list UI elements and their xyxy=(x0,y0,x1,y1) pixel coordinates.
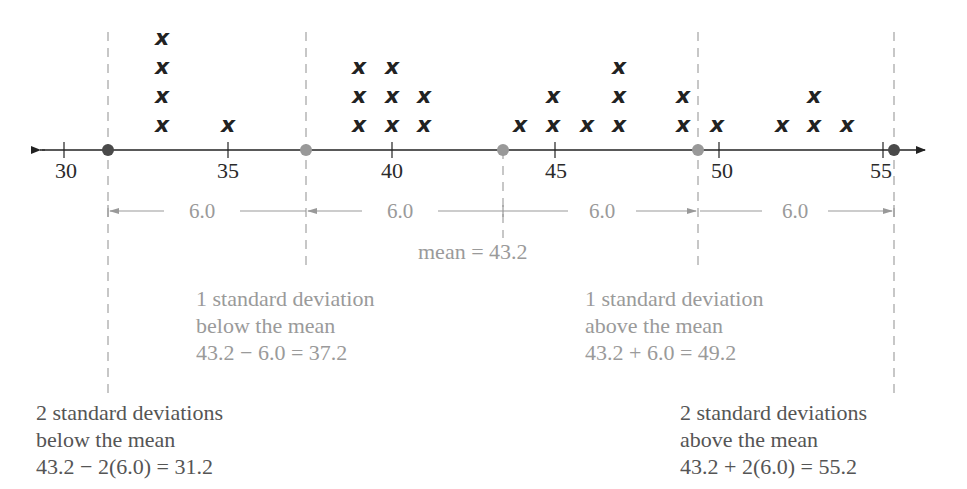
data-point-x: x xyxy=(580,114,594,136)
axis-label-40: 40 xyxy=(381,158,403,184)
annotation-line: 43.2 + 6.0 = 49.2 xyxy=(585,339,763,366)
number-line xyxy=(40,142,925,158)
data-point-x: x xyxy=(840,114,854,136)
annotation-line: above the mean xyxy=(585,312,763,339)
data-point-x: x xyxy=(417,85,431,107)
data-point-x: x xyxy=(352,114,366,136)
annotation-line: below the mean xyxy=(196,312,374,339)
data-point-x: x xyxy=(612,114,626,136)
data-point-x: x xyxy=(546,114,560,136)
annotation-line: 2 standard deviations xyxy=(680,399,867,426)
annotation-line: 2 standard deviations xyxy=(36,399,223,426)
axis-label-30: 30 xyxy=(55,158,77,184)
data-point-x: x xyxy=(546,85,560,107)
data-point-x: x xyxy=(385,114,399,136)
marker-dot-55-2 xyxy=(888,144,900,156)
data-point-x: x xyxy=(155,114,169,136)
annotation-minus-2-sd: 2 standard deviations below the mean 43.… xyxy=(36,399,223,480)
annotation-line: 43.2 − 6.0 = 37.2 xyxy=(196,339,374,366)
marker-dot-49-2 xyxy=(692,144,704,156)
axis-label-45: 45 xyxy=(545,158,567,184)
annotation-minus-1-sd: 1 standard deviation below the mean 43.2… xyxy=(196,285,374,366)
data-point-x: x xyxy=(385,85,399,107)
data-point-x: x xyxy=(385,56,399,78)
data-point-x: x xyxy=(775,114,789,136)
annotation-plus-1-sd: 1 standard deviation above the mean 43.2… xyxy=(585,285,763,366)
data-point-x: x xyxy=(612,56,626,78)
annotation-line: 1 standard deviation xyxy=(196,285,374,312)
segment-label-2: 6.0 xyxy=(379,199,421,224)
data-point-x: x xyxy=(710,114,724,136)
annotation-plus-2-sd: 2 standard deviations above the mean 43.… xyxy=(680,399,867,480)
segment-label-4: 6.0 xyxy=(774,199,816,224)
marker-dot-43-2 xyxy=(497,144,509,156)
marker-dot-31-2 xyxy=(102,144,114,156)
annotation-line: below the mean xyxy=(36,426,223,453)
annotation-line: 43.2 + 2(6.0) = 55.2 xyxy=(680,453,867,480)
annotation-line: above the mean xyxy=(680,426,867,453)
data-point-x: x xyxy=(612,85,626,107)
mean-label: mean = 43.2 xyxy=(418,238,528,265)
dot-plot-diagram: x x x x x x x x x x x x x x x x x x x x … xyxy=(0,0,967,489)
axis-label-35: 35 xyxy=(217,158,239,184)
annotation-line: 1 standard deviation xyxy=(585,285,763,312)
marker-dot-37-2 xyxy=(300,144,312,156)
data-point-x: x xyxy=(155,85,169,107)
data-point-x: x xyxy=(155,27,169,49)
data-point-x: x xyxy=(352,85,366,107)
data-point-x: x xyxy=(352,56,366,78)
data-point-x: x xyxy=(221,114,235,136)
data-point-x: x xyxy=(417,114,431,136)
axis-label-50: 50 xyxy=(711,158,733,184)
annotation-line: 43.2 − 2(6.0) = 31.2 xyxy=(36,453,223,480)
data-point-x: x xyxy=(155,56,169,78)
data-point-x: x xyxy=(807,85,821,107)
data-point-x: x xyxy=(676,85,690,107)
data-point-x: x xyxy=(513,114,527,136)
data-point-x: x xyxy=(676,114,690,136)
data-point-x: x xyxy=(807,114,821,136)
segment-label-3: 6.0 xyxy=(581,199,623,224)
segment-label-1: 6.0 xyxy=(181,199,223,224)
axis-label-55: 55 xyxy=(870,158,892,184)
